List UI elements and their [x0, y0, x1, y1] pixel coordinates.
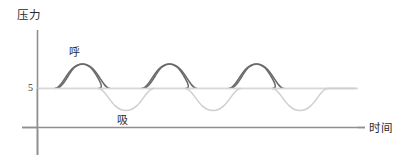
- y-axis-label: 压力: [17, 6, 40, 22]
- inhale-phase-label: 吸: [117, 111, 128, 127]
- plot-canvas: [0, 0, 408, 166]
- below-baseline-mask: [38, 89, 358, 129]
- respiratory-pressure-waveform-figure: 压力 时间 5 呼 吸: [0, 0, 408, 166]
- waveform-above-baseline: [55, 64, 275, 89]
- x-axis-label: 时间: [369, 119, 392, 135]
- y-axis-tick-label-5: 5: [28, 82, 33, 93]
- exhale-phase-label: 呼: [69, 43, 80, 59]
